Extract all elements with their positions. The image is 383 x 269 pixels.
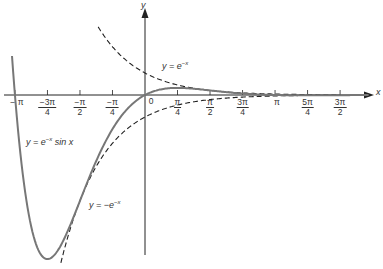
x-tick-label: −π4 <box>106 98 119 117</box>
x-tick-label: −π2 <box>74 98 87 117</box>
main-curve-label-base: y = e <box>26 137 46 147</box>
x-tick-label: 3π4 <box>236 98 249 117</box>
axes <box>4 8 374 255</box>
x-tick-label: − π <box>10 98 23 107</box>
tick-denominator: 2 <box>74 108 87 117</box>
x-tick-label: 3π2 <box>334 98 347 117</box>
tick-denominator: 2 <box>206 108 214 117</box>
lower-curve-label-base: y = −e <box>89 200 114 210</box>
tick-denominator: 4 <box>174 108 182 117</box>
x-tick-label: π2 <box>206 98 214 117</box>
tick-denominator: 4 <box>301 108 314 117</box>
tick-denominator: 2 <box>334 108 347 117</box>
tick-denominator: 4 <box>236 108 249 117</box>
main-curve-label: y = e−x sin x <box>26 136 73 147</box>
x-tick-label: 0 <box>149 97 154 106</box>
curve-exp-neg-x <box>98 27 340 95</box>
upper-curve-label-base: y = e <box>162 61 182 71</box>
curve-neg-exp-neg-x <box>61 95 341 263</box>
curve-exp-neg-x-sin-x <box>12 56 369 259</box>
tick-denominator: 4 <box>39 108 57 117</box>
x-tick-label: −3π4 <box>39 98 57 117</box>
chart-plot-area <box>0 0 383 269</box>
x-tick-label: π <box>274 98 280 107</box>
upper-curve-label-exp: −x <box>182 60 189 66</box>
x-tick-label: 5π4 <box>301 98 314 117</box>
lower-curve-label-exp: −x <box>114 199 121 205</box>
tick-denominator: 4 <box>106 108 119 117</box>
lower-curve-label: y = −e−x <box>89 199 121 210</box>
x-axis-label: x <box>376 87 381 97</box>
x-tick-label: π4 <box>174 98 182 117</box>
upper-curve-label: y = e−x <box>162 60 188 71</box>
main-curve-label-tail: sin x <box>52 137 73 147</box>
y-axis-label: y <box>141 0 146 10</box>
